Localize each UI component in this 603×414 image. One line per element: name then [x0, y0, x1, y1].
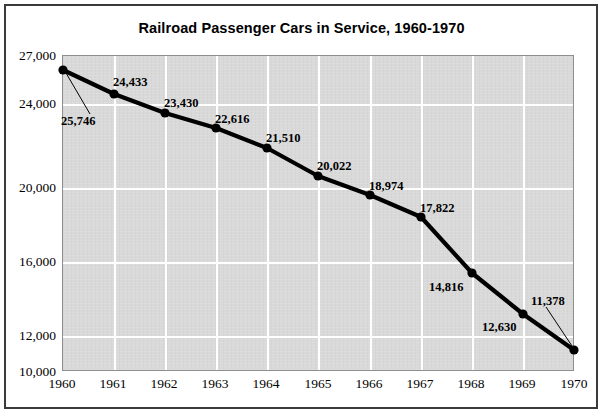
- data-point-label: 12,630: [482, 320, 516, 335]
- data-point-label: 14,816: [429, 280, 463, 295]
- data-point: [569, 345, 578, 354]
- data-series-layer: [0, 0, 603, 414]
- data-point: [467, 268, 476, 277]
- data-point-label: 23,430: [164, 96, 198, 111]
- data-point-label: 17,822: [420, 201, 454, 216]
- data-point: [109, 89, 118, 98]
- data-point: [518, 309, 527, 318]
- data-point-label: 11,378: [531, 294, 565, 309]
- data-point-label: 20,022: [317, 159, 351, 174]
- data-line: [63, 70, 574, 350]
- data-point-label: 25,746: [61, 114, 95, 129]
- data-point-label: 18,974: [369, 179, 403, 194]
- data-point-label: 22,616: [215, 112, 249, 127]
- chart-image: Railroad Passenger Cars in Service, 1960…: [0, 0, 603, 414]
- data-point-label: 24,433: [113, 75, 147, 90]
- data-point-label: 21,510: [266, 131, 300, 146]
